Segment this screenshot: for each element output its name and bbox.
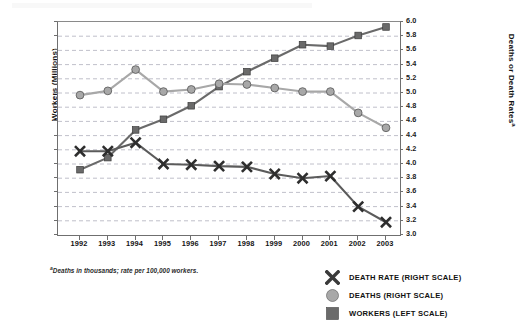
- right-axis-tick-label: 3.8: [406, 173, 446, 180]
- right-axis-title: Deaths or Death Ratesa: [507, 15, 518, 145]
- x-axis-tick-mark: [357, 236, 358, 240]
- right-axis-tick-mark: [400, 120, 403, 121]
- left-axis-tick-mark: [54, 163, 57, 164]
- right-axis-tick-label: 5.6: [406, 45, 446, 52]
- legend-item-label: DEATHS (RIGHT SCALE): [349, 291, 443, 300]
- left-axis-tick-mark: [54, 78, 57, 79]
- chart-legend: DEATH RATE (RIGHT SCALE)DEATHS (RIGHT SC…: [325, 268, 525, 322]
- right-axis-tick-label: 6.0: [406, 17, 446, 24]
- plot-area: [57, 21, 401, 236]
- x-axis-tick-label: 2003: [368, 240, 402, 247]
- x-axis-tick-mark: [246, 236, 247, 240]
- right-axis-tick-mark: [400, 149, 403, 150]
- left-axis-tick-mark: [54, 92, 57, 93]
- left-axis-tick-mark: [54, 177, 57, 178]
- left-axis-tick-mark: [54, 35, 57, 36]
- right-axis-tick-label: 5.4: [406, 60, 446, 67]
- right-axis-tick-label: 4.2: [406, 145, 446, 152]
- legend-item[interactable]: DEATHS (RIGHT SCALE): [325, 286, 525, 304]
- right-axis-tick-mark: [400, 92, 403, 93]
- x-axis-tick-mark: [107, 236, 108, 240]
- right-axis-tick-label: 5.0: [406, 88, 446, 95]
- square-marker-icon: [325, 306, 340, 321]
- left-axis-tick-mark: [54, 21, 57, 22]
- right-axis-tick-mark: [400, 64, 403, 65]
- right-axis-title-text: Deaths or Death Rates: [507, 34, 516, 124]
- right-axis-tick-label: 5.8: [406, 31, 446, 38]
- x-axis-tick-mark: [302, 236, 303, 240]
- x-axis-tick-mark: [218, 236, 219, 240]
- left-axis-tick-mark: [54, 191, 57, 192]
- x-axis-tick-mark: [329, 236, 330, 240]
- x-axis-tick-mark: [162, 236, 163, 240]
- right-axis-tick-label: 3.2: [406, 216, 446, 223]
- right-axis-tick-label: 3.6: [406, 187, 446, 194]
- footnote: aDeaths in thousands; rate per 100,000 w…: [50, 265, 198, 274]
- footnote-text: Deaths in thousands; rate per 100,000 wo…: [53, 267, 198, 274]
- legend-item[interactable]: WORKERS (LEFT SCALE): [325, 304, 525, 322]
- right-axis-tick-mark: [400, 177, 403, 178]
- right-axis-tick-mark: [400, 234, 403, 235]
- right-axis-tick-mark: [400, 21, 403, 22]
- left-axis-tick-mark: [54, 135, 57, 136]
- right-axis-tick-mark: [400, 206, 403, 207]
- x-axis-tick-mark: [385, 236, 386, 240]
- left-axis-tick-mark: [54, 106, 57, 107]
- left-axis-tick-mark: [54, 49, 57, 50]
- chart-canvas: [58, 22, 400, 235]
- left-axis-tick-mark: [54, 206, 57, 207]
- right-axis-tick-mark: [400, 135, 403, 136]
- chart-figure: Workers (Millions) Deaths or Death Rates…: [0, 0, 529, 332]
- right-axis-tick-label: 3.0: [406, 230, 446, 237]
- left-axis-tick-mark: [54, 64, 57, 65]
- x-axis-tick-mark: [190, 236, 191, 240]
- right-axis-tick-mark: [400, 35, 403, 36]
- x-axis-tick-mark: [135, 236, 136, 240]
- right-axis-tick-label: 4.0: [406, 159, 446, 166]
- legend-item[interactable]: DEATH RATE (RIGHT SCALE): [325, 268, 525, 286]
- right-axis-tick-label: 5.2: [406, 74, 446, 81]
- right-axis-tick-label: 4.6: [406, 116, 446, 123]
- right-axis-tick-mark: [400, 220, 403, 221]
- cropped-title-artifact: [12, 3, 312, 8]
- right-axis-tick-label: 4.8: [406, 102, 446, 109]
- right-axis-tick-mark: [400, 163, 403, 164]
- right-axis-tick-mark: [400, 49, 403, 50]
- circle-marker-icon: [325, 288, 340, 303]
- left-axis-tick-mark: [54, 149, 57, 150]
- right-axis-title-superscript: a: [511, 123, 517, 127]
- x-axis-tick-mark: [79, 236, 80, 240]
- legend-item-label: WORKERS (LEFT SCALE): [349, 309, 448, 318]
- left-axis-tick-mark: [54, 234, 57, 235]
- x-marker-icon: [325, 270, 340, 285]
- right-axis-tick-mark: [400, 78, 403, 79]
- right-axis-tick-label: 3.4: [406, 202, 446, 209]
- left-axis-tick-mark: [54, 220, 57, 221]
- left-axis-tick-mark: [54, 120, 57, 121]
- x-axis-tick-mark: [274, 236, 275, 240]
- right-axis-tick-label: 4.4: [406, 131, 446, 138]
- legend-item-label: DEATH RATE (RIGHT SCALE): [349, 273, 461, 282]
- right-axis-tick-mark: [400, 191, 403, 192]
- right-axis-tick-mark: [400, 106, 403, 107]
